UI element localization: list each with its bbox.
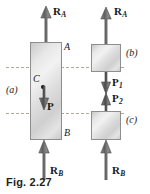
panel-label-c: (c) (126, 115, 137, 125)
panel-label-b: (b) (126, 48, 138, 58)
label-centroid-c: C (33, 74, 40, 84)
label-section-a: A (64, 42, 70, 52)
label-internal-force-p1: P1 (112, 77, 123, 89)
label-section-b: B (64, 128, 70, 138)
arrow-reaction-ra-panel-a (40, 6, 52, 44)
label-internal-force-p2: P2 (112, 93, 123, 105)
figure-2-27: RA A C P B (0, 0, 150, 194)
figure-caption: Fig. 2.27 (6, 176, 52, 188)
panel-label-a: (a) (6, 85, 18, 95)
arrow-reaction-rb-panel-c (100, 140, 112, 180)
arrow-reaction-rb-panel-a (38, 140, 50, 180)
label-reaction-ra-panel-a: RA (53, 6, 66, 18)
panel-a: RA A C P B (0, 0, 78, 194)
arrow-reaction-ra-panel-b (100, 7, 112, 45)
label-reaction-rb-panel-a: RB (50, 165, 63, 177)
label-load-p-panel-a: P (47, 101, 54, 112)
arrow-internal-force-p1 (101, 72, 111, 94)
label-reaction-rb-panel-c: RB (112, 165, 125, 177)
segment-block-panel-b (91, 44, 121, 72)
label-reaction-ra-panel-b: RA (114, 6, 127, 18)
segment-block-panel-c (91, 111, 121, 140)
panel-b: RA P1 (b) (78, 0, 150, 100)
panel-c: P2 RB (c) (78, 92, 150, 194)
